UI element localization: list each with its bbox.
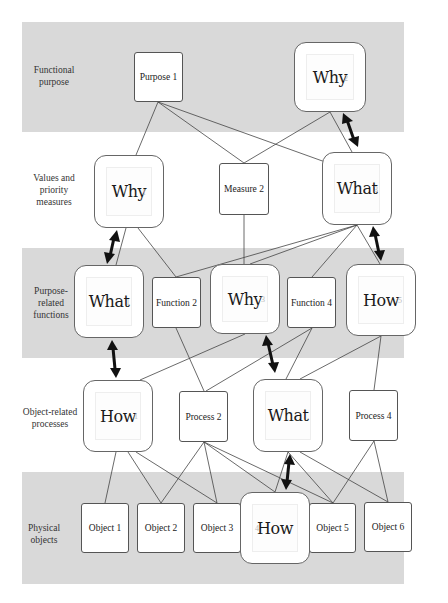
node-function-2[interactable]: Function 2	[152, 277, 201, 328]
node-object-6[interactable]: Object 6	[364, 502, 412, 552]
node-object-4-how[interactable]: How 4	[240, 492, 310, 564]
node-label: Object 2	[145, 523, 177, 533]
node-ghost-index: 1	[126, 298, 130, 307]
arrow-what1-how1	[107, 340, 121, 378]
node-label: Object 3	[201, 523, 233, 533]
node-label: How	[100, 407, 136, 426]
node-label: Object 1	[89, 523, 121, 533]
node-function-1-what[interactable]: What 1	[74, 265, 144, 338]
arrow-what3-how5	[369, 226, 385, 261]
node-label: Purpose 1	[140, 72, 178, 82]
node-ghost-index: 3	[261, 295, 265, 304]
node-label: How	[257, 519, 293, 538]
node-label: What	[337, 179, 378, 198]
node-process-1-how[interactable]: How 1	[83, 380, 153, 452]
node-label: Function 2	[156, 298, 197, 308]
node-label: How	[363, 291, 399, 310]
arrow-what2-how	[281, 454, 295, 490]
node-label: Object 5	[316, 523, 348, 533]
arrow-why3-what2	[262, 335, 279, 373]
node-label: Object 6	[372, 522, 404, 532]
node-measure-2[interactable]: Measure 2	[219, 163, 269, 215]
node-object-2[interactable]: Object 2	[137, 503, 185, 553]
node-ghost-index: 5	[398, 296, 402, 305]
node-measure-3-what[interactable]: What 3	[322, 152, 392, 225]
node-label: What	[89, 292, 130, 311]
node-function-5-how[interactable]: How 5	[346, 264, 416, 336]
node-label: Process 4	[355, 411, 391, 421]
node-purpose-2-why[interactable]: Why 2	[294, 42, 366, 112]
node-label: Why	[228, 290, 262, 309]
node-label: Measure 2	[224, 184, 264, 194]
node-label: Process 2	[185, 412, 221, 422]
node-label: Function 4	[291, 298, 332, 308]
node-measure-1-why[interactable]: Why 1	[94, 155, 164, 228]
node-ghost-index: 3	[374, 185, 378, 194]
node-process-2[interactable]: Process 2	[179, 391, 228, 442]
node-function-3-why[interactable]: Why 3	[210, 264, 280, 334]
node-process-3-what[interactable]: What	[253, 379, 323, 452]
node-purpose-1[interactable]: Purpose 1	[134, 52, 183, 102]
node-label: Why	[313, 68, 347, 87]
node-label: What	[268, 406, 309, 425]
node-ghost-index: 2	[344, 74, 348, 83]
node-ghost-index: 4	[255, 524, 259, 533]
arrow-why2-what3	[342, 113, 359, 147]
node-ghost-index: 1	[142, 188, 146, 197]
node-object-1[interactable]: Object 1	[81, 503, 129, 553]
node-object-3[interactable]: Object 3	[193, 503, 241, 553]
node-object-5[interactable]: Object 5	[309, 503, 356, 553]
node-ghost-index: 1	[134, 412, 138, 421]
node-function-4[interactable]: Function 4	[287, 277, 336, 328]
node-label: Why	[112, 182, 146, 201]
node-process-4[interactable]: Process 4	[349, 390, 398, 441]
